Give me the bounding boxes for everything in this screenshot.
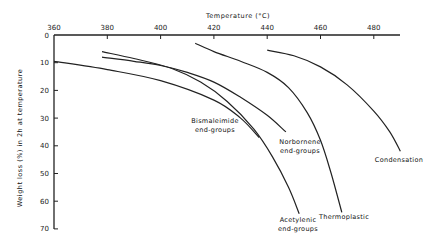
series-label-bismaleimide-end-groups: end-groups xyxy=(195,126,235,134)
y-tick-label: 20 xyxy=(40,87,49,95)
x-tick-label: 360 xyxy=(47,24,60,32)
series-label-bismaleimide-end-groups: Bismaleimide xyxy=(191,117,238,125)
x-tick-label: 420 xyxy=(207,24,220,32)
x-tick-label: 440 xyxy=(261,24,274,32)
y-tick-label: 30 xyxy=(40,115,49,123)
y-tick-label: 70 xyxy=(40,225,49,233)
y-axis-title: Weight loss (%) in 2h at temperature xyxy=(16,69,24,207)
x-axis-ticks: 360380400420440460480 xyxy=(47,24,380,39)
y-tick-label: 50 xyxy=(40,170,49,178)
series-label-norbornene-end-groups: Norbornene xyxy=(279,138,320,146)
series-label-acetylenic-end-groups: end-groups xyxy=(278,225,318,233)
x-axis-title: Temperature (°C) xyxy=(205,12,270,20)
y-tick-label: 10 xyxy=(40,59,49,67)
series-label-condensation: Condensation xyxy=(375,156,423,164)
series-label-norbornene-end-groups: end-groups xyxy=(280,147,320,155)
series-labels: Bismaleimideend-groupsNorborneneend-grou… xyxy=(191,117,423,233)
x-tick-label: 480 xyxy=(367,24,380,32)
x-tick-label: 380 xyxy=(101,24,114,32)
y-tick-label: 0 xyxy=(45,32,49,40)
x-tick-label: 460 xyxy=(314,24,327,32)
weight-loss-chart: Temperature (°C) 360380400420440460480 0… xyxy=(0,0,448,245)
y-tick-label: 60 xyxy=(40,198,49,206)
x-tick-label: 400 xyxy=(154,24,167,32)
series-label-thermoplastic: Thermoplastic xyxy=(318,213,369,221)
series-label-acetylenic-end-groups: Acetylenic xyxy=(280,216,317,224)
curve-condensation xyxy=(267,50,400,151)
y-tick-label: 40 xyxy=(40,142,49,150)
